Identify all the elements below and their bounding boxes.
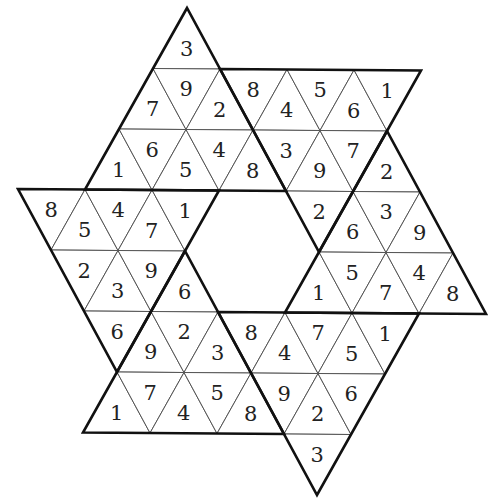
cell-number: 3: [180, 37, 193, 61]
cell-number: 6: [346, 220, 359, 244]
cell-number: 6: [347, 99, 360, 123]
cell-number: 5: [78, 218, 91, 242]
cell-number: 2: [380, 160, 393, 184]
cell-number: 2: [313, 200, 326, 224]
cell-number: 7: [144, 381, 157, 405]
cell-number: 4: [280, 98, 293, 122]
cell-number: 1: [312, 281, 325, 305]
cell-number: 7: [312, 321, 325, 345]
cell-number: 4: [413, 261, 426, 285]
cell-number: 7: [379, 281, 392, 305]
cell-number: 4: [213, 138, 226, 162]
cell-number: 3: [211, 341, 224, 365]
star-sudoku-board: 3792845611654839728547126392396157486923…: [0, 0, 499, 501]
cell-number: 6: [146, 138, 159, 162]
cell-number: 1: [112, 158, 125, 182]
cell-number: 9: [144, 340, 157, 364]
cell-number: 1: [379, 322, 392, 346]
cell-number: 5: [211, 381, 224, 405]
cell-number: 5: [346, 261, 359, 285]
cell-number: 6: [345, 382, 358, 406]
cell-number: 8: [246, 159, 259, 183]
cell-number: 9: [145, 259, 158, 283]
cell-number: 5: [179, 158, 192, 182]
cell-number: 9: [278, 382, 291, 406]
cell-number: 3: [311, 443, 324, 467]
cell-number: 6: [111, 320, 124, 344]
cell-number: 3: [111, 279, 124, 303]
cell-number: 1: [179, 199, 192, 223]
cell-number: 4: [278, 341, 291, 365]
cell-number: 2: [213, 98, 226, 122]
cell-number: 8: [245, 321, 258, 345]
cell-number: 4: [112, 198, 125, 222]
cell-number: 1: [381, 79, 394, 103]
cell-number: 2: [78, 259, 91, 283]
cell-number: 7: [347, 139, 360, 163]
cell-number: 7: [146, 97, 159, 121]
cell-number: 7: [145, 219, 158, 243]
cell-number: 8: [45, 198, 58, 222]
cell-number: 8: [244, 402, 257, 426]
cell-number: 9: [180, 77, 193, 101]
cell-number: 2: [178, 320, 191, 344]
cell-number: 9: [313, 159, 326, 183]
cell-number: 3: [380, 200, 393, 224]
cell-number: 4: [177, 401, 190, 425]
cell-number: 3: [280, 139, 293, 163]
cell-number: 2: [311, 402, 324, 426]
cell-number: 8: [247, 78, 260, 102]
cell-number: 5: [314, 78, 327, 102]
cell-number: 8: [446, 282, 459, 306]
cell-number: 6: [178, 280, 191, 304]
cell-number: 5: [345, 342, 358, 366]
cell-number: 9: [413, 221, 426, 245]
cell-number: 1: [110, 401, 123, 425]
